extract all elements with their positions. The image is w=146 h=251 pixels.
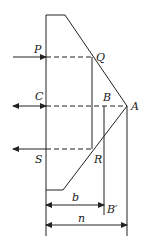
label-q: Q [96, 51, 105, 64]
label-dim-b: b [72, 191, 79, 204]
ray-arrows [13, 57, 46, 149]
label-p: P [33, 43, 42, 56]
label-s: S [35, 153, 43, 166]
label-a: A [130, 100, 139, 113]
optics-diagram: P Q C B A S R B′ b n [0, 0, 146, 251]
label-c: C [35, 90, 44, 103]
label-b-prime: B′ [106, 203, 118, 216]
label-r: R [93, 153, 102, 166]
label-dim-n: n [78, 212, 85, 225]
label-b: B [102, 91, 111, 104]
dashed-lines [46, 57, 127, 149]
construction-lines [92, 57, 104, 215]
